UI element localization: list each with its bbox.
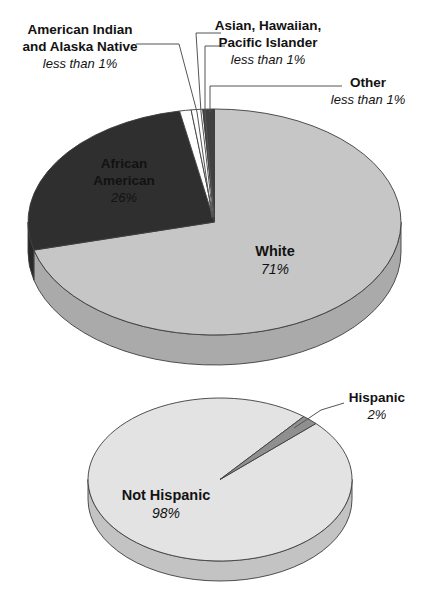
pie-race [28,109,401,365]
white-label: White [225,243,325,261]
pie-ethnicity-top [88,398,352,561]
hispanic-label: Hispanic [335,389,419,406]
slice-label-african-american: African American 26% [74,155,174,206]
callout-asian-label-line2: Pacific Islander [193,34,343,51]
slice-label-not-hispanic: Not Hispanic 98% [106,487,226,522]
callout-other-label: Other [313,74,423,91]
dual-pie-chart-figure: American Indian and Alaska Native less t… [0,0,428,601]
callout-other: Other less than 1% [313,74,423,108]
slice-label-white: White 71% [225,243,325,278]
african-american-label-line1: African [74,155,174,172]
callout-american-indian-value: less than 1% [5,55,155,72]
callout-american-indian-label-line2: and Alaska Native [5,38,155,55]
african-american-label-line2: American [74,172,174,189]
not-hispanic-label: Not Hispanic [106,487,226,505]
white-value: 71% [225,261,325,279]
hispanic-value: 2% [335,406,419,423]
callout-american-indian: American Indian and Alaska Native less t… [5,21,155,72]
callout-asian-label-line1: Asian, Hawaiian, [193,17,343,34]
callout-other-value: less than 1% [313,91,423,108]
callout-asian-hawaiian-pacific-islander: Asian, Hawaiian, Pacific Islander less t… [193,17,343,68]
callout-asian-value: less than 1% [193,51,343,68]
callout-hispanic: Hispanic 2% [335,389,419,423]
callout-american-indian-label-line1: American Indian [5,21,155,38]
african-american-value: 26% [74,189,174,206]
not-hispanic-value: 98% [106,505,226,523]
pie-race-top [28,109,401,335]
